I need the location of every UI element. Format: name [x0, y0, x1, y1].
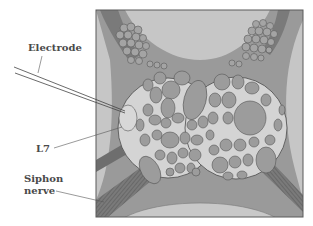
siphon-nerve-label-line2: nerve	[24, 185, 55, 196]
electrode-leader	[38, 56, 42, 73]
electrode-label: Electrode	[28, 42, 82, 53]
frame-contents	[96, 10, 303, 226]
l7-label: L7	[36, 143, 50, 154]
siphon-nerve-label-line1: Siphon	[24, 173, 63, 184]
